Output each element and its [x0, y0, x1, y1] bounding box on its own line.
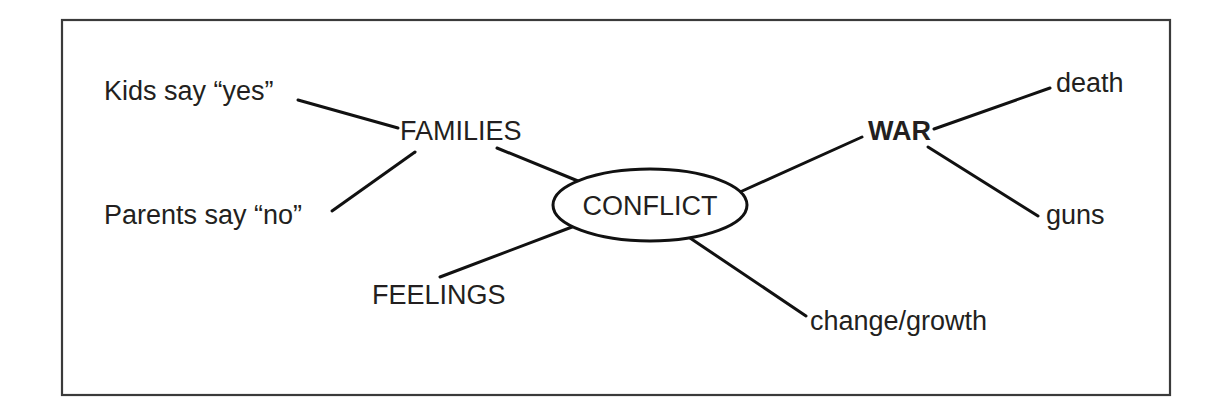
node-label-war: WAR — [868, 116, 931, 146]
central-node-label: CONFLICT — [583, 191, 718, 221]
node-label-parents-say-no: Parents say “no” — [104, 200, 302, 230]
mind-map-diagram: CONFLICT FAMILIESKids say “yes”Parents s… — [0, 0, 1228, 419]
node-label-guns: guns — [1046, 200, 1105, 230]
node-label-death: death — [1056, 68, 1124, 98]
node-label-kids-say-yes: Kids say “yes” — [104, 76, 274, 106]
node-label-families: FAMILIES — [400, 116, 522, 146]
diagram-canvas: CONFLICT FAMILIESKids say “yes”Parents s… — [0, 0, 1228, 419]
node-label-change-growth: change/growth — [810, 306, 987, 336]
node-label-feelings: FEELINGS — [372, 280, 506, 310]
